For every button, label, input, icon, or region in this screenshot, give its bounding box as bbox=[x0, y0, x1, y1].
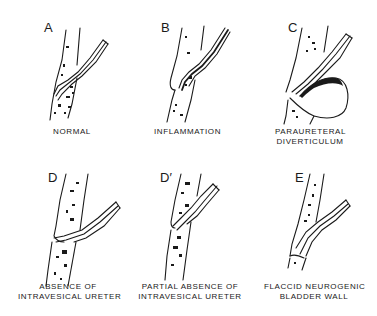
panel-d-prime-partial-absence: D′ PARTIAL ABSENCE OF INTRAVESICAL URETE… bbox=[125, 160, 250, 316]
caption-line: INTRAVESICAL URETER bbox=[18, 292, 118, 302]
panel-caption: NORMAL bbox=[42, 127, 102, 137]
caption-line: PARAURETERAL bbox=[275, 127, 345, 137]
panel-e-flaccid-neurogenic-bladder: E FLACCID NEUROGENIC BLADDER WALL bbox=[250, 160, 377, 316]
panel-caption: INFLAMMATION bbox=[150, 127, 225, 137]
caption-line: FLACCID NEUROGENIC bbox=[264, 282, 364, 292]
caption-line: INTRAVESICAL URETER bbox=[135, 292, 245, 302]
caption-line: PARTIAL ABSENCE OF bbox=[135, 282, 245, 292]
panel-caption: ABSENCE OF INTRAVESICAL URETER bbox=[18, 282, 118, 302]
panel-a-normal: A NORMAL bbox=[0, 0, 125, 160]
panel-caption: PARAURETERAL DIVERTICULUM bbox=[275, 127, 345, 147]
caption-line: DIVERTICULUM bbox=[275, 137, 345, 147]
caption-line: NORMAL bbox=[42, 127, 102, 137]
caption-line: BLADDER WALL bbox=[264, 292, 364, 302]
panel-c-paraureteral-diverticulum: C PARAURETERAL DIVERTICULUM bbox=[250, 0, 377, 160]
caption-line: INFLAMMATION bbox=[150, 127, 225, 137]
caption-line: ABSENCE OF bbox=[18, 282, 118, 292]
panel-caption: PARTIAL ABSENCE OF INTRAVESICAL URETER bbox=[135, 282, 245, 302]
panel-caption: FLACCID NEUROGENIC BLADDER WALL bbox=[264, 282, 364, 302]
panel-b-inflammation: B INFLAMMATION bbox=[125, 0, 250, 160]
panel-d-absence-intravesical-ureter: D ABSENCE OF INTRAVESICAL URETER bbox=[0, 160, 125, 316]
